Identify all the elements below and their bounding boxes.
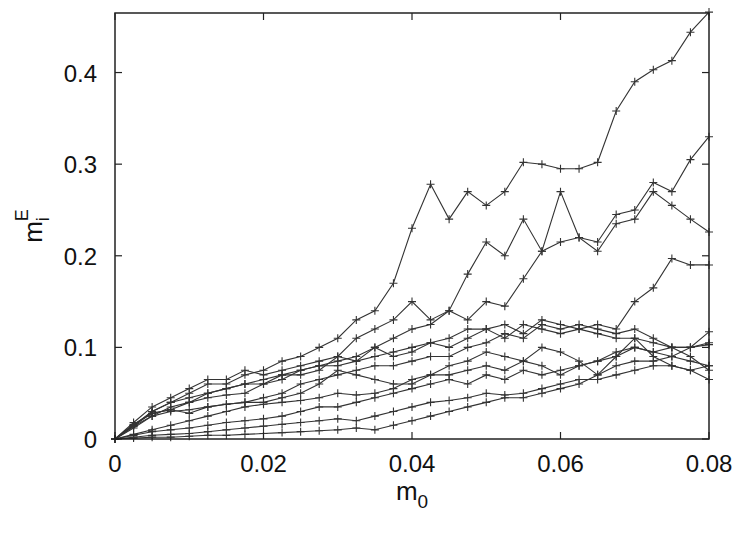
plus-marker-icon — [241, 389, 249, 397]
x-tick-label: 0.08 — [686, 450, 733, 477]
plus-marker-icon — [297, 353, 305, 361]
y-tick-label: 0.2 — [64, 243, 97, 270]
plus-marker-icon — [557, 385, 565, 393]
plus-marker-icon — [649, 348, 657, 356]
plus-marker-icon — [482, 325, 490, 333]
plus-marker-icon — [445, 408, 453, 416]
plus-marker-icon — [538, 389, 546, 397]
plus-marker-icon — [389, 334, 397, 342]
plus-marker-icon — [557, 165, 565, 173]
plus-marker-icon — [408, 224, 416, 232]
x-axis-label: m0 — [396, 476, 428, 512]
plus-marker-icon — [427, 380, 435, 388]
plus-marker-icon — [222, 400, 230, 408]
plus-marker-icon — [594, 247, 602, 255]
plus-marker-icon — [538, 160, 546, 168]
plus-marker-icon — [445, 362, 453, 370]
plus-marker-icon — [612, 362, 620, 370]
plus-marker-icon — [185, 417, 193, 425]
plus-marker-icon — [278, 412, 286, 420]
plus-marker-icon — [352, 371, 360, 379]
plus-marker-icon — [668, 353, 676, 361]
plus-marker-icon — [315, 427, 323, 435]
x-tick-label: 0.06 — [537, 450, 584, 477]
plus-marker-icon — [334, 403, 342, 411]
x-tick-label: 0 — [108, 450, 121, 477]
plus-marker-icon — [427, 353, 435, 361]
plus-marker-icon — [501, 320, 509, 328]
plus-marker-icon — [464, 188, 472, 196]
plus-marker-icon — [482, 238, 490, 246]
plus-marker-icon — [445, 215, 453, 223]
x-tick-label: 0.04 — [389, 450, 436, 477]
plus-marker-icon — [222, 408, 230, 416]
plus-marker-icon — [501, 353, 509, 361]
y-tick-label: 0 — [84, 426, 97, 453]
plus-marker-icon — [557, 188, 565, 196]
plus-marker-icon — [519, 366, 527, 374]
y-tick-label: 0.1 — [64, 334, 97, 361]
plus-marker-icon — [482, 339, 490, 347]
plus-marker-icon — [389, 389, 397, 397]
plus-marker-icon — [631, 357, 639, 365]
plus-marker-icon — [278, 398, 286, 406]
plus-marker-icon — [519, 320, 527, 328]
plus-marker-icon — [464, 380, 472, 388]
plus-marker-icon — [148, 433, 156, 441]
plus-marker-icon — [371, 375, 379, 383]
plus-marker-icon — [408, 385, 416, 393]
plus-marker-icon — [686, 366, 694, 374]
plus-marker-icon — [464, 394, 472, 402]
plus-marker-icon — [371, 362, 379, 370]
plus-marker-icon — [538, 247, 546, 255]
plus-marker-icon — [297, 397, 305, 405]
plus-marker-icon — [501, 366, 509, 374]
plus-marker-icon — [575, 233, 583, 241]
plus-marker-icon — [315, 394, 323, 402]
plus-marker-icon — [649, 284, 657, 292]
plus-marker-icon — [557, 325, 565, 333]
plus-marker-icon — [519, 158, 527, 166]
plus-marker-icon — [241, 417, 249, 425]
plus-marker-icon — [352, 391, 360, 399]
plus-marker-icon — [482, 201, 490, 209]
plus-marker-icon — [297, 419, 305, 427]
plus-marker-icon — [631, 298, 639, 306]
plus-marker-icon — [408, 325, 416, 333]
plus-marker-icon — [427, 371, 435, 379]
plus-marker-icon — [241, 403, 249, 411]
plus-marker-icon — [519, 275, 527, 283]
plus-marker-icon — [649, 66, 657, 74]
plus-marker-icon — [371, 426, 379, 434]
plus-marker-icon — [612, 371, 620, 379]
plus-marker-icon — [260, 415, 268, 423]
plus-marker-icon — [501, 302, 509, 310]
plus-marker-icon — [464, 357, 472, 365]
line-chart: 00.020.040.060.08 00.10.20.30.4 m0 miE — [0, 0, 747, 550]
plus-marker-icon — [538, 362, 546, 370]
plus-marker-icon — [464, 334, 472, 342]
plus-marker-icon — [222, 431, 230, 439]
plus-marker-icon — [427, 398, 435, 406]
data-series — [111, 8, 713, 443]
plus-marker-icon — [668, 255, 676, 263]
plus-marker-icon — [482, 398, 490, 406]
plus-marker-icon — [260, 422, 268, 430]
plus-marker-icon — [519, 334, 527, 342]
plus-marker-icon — [464, 403, 472, 411]
plus-marker-icon — [371, 343, 379, 351]
plus-marker-icon — [649, 334, 657, 342]
plus-marker-icon — [594, 325, 602, 333]
plus-marker-icon — [482, 362, 490, 370]
plus-marker-icon — [278, 357, 286, 365]
plus-marker-icon — [222, 385, 230, 393]
plus-marker-icon — [427, 320, 435, 328]
plus-marker-icon — [631, 206, 639, 214]
plus-marker-icon — [501, 188, 509, 196]
plus-marker-icon — [427, 339, 435, 347]
plus-marker-icon — [464, 325, 472, 333]
plus-marker-icon — [445, 375, 453, 383]
plus-marker-icon — [501, 252, 509, 260]
plus-marker-icon — [241, 380, 249, 388]
plus-marker-icon — [612, 330, 620, 338]
